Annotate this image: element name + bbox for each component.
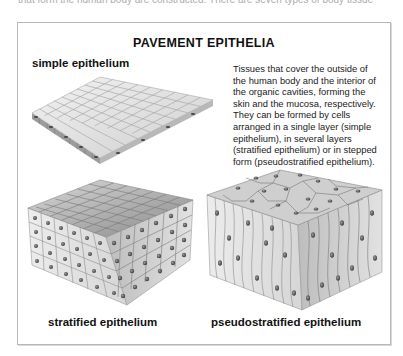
stratified-epithelium-illustration xyxy=(28,180,193,305)
intro-text-fragment: that form the human body are constructed… xyxy=(18,0,373,5)
simple-epithelium-illustration xyxy=(32,77,213,164)
illustrations xyxy=(18,23,390,344)
pseudostratified-epithelium-illustration xyxy=(207,170,382,310)
figure-frame: PAVEMENT EPITHELIA simple epithelium Tis… xyxy=(17,22,391,345)
